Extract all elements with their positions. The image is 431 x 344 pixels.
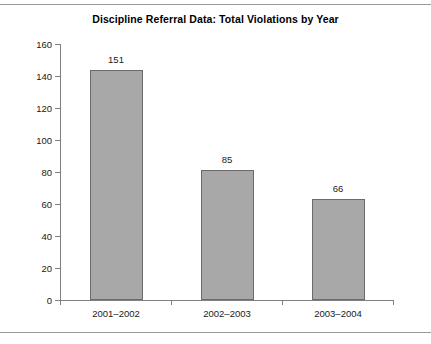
y-axis-tick-label: 160 bbox=[6, 40, 52, 50]
y-axis-tick bbox=[55, 108, 60, 109]
x-axis-tick bbox=[171, 300, 172, 305]
y-axis-tick bbox=[55, 236, 60, 237]
bar-value-label: 151 bbox=[56, 55, 176, 65]
x-axis-tick bbox=[60, 300, 61, 305]
y-axis-tick-label: 40 bbox=[6, 232, 52, 242]
y-axis-tick bbox=[55, 204, 60, 205]
y-axis-tick-label: 60 bbox=[6, 200, 52, 210]
y-axis-tick bbox=[55, 172, 60, 173]
bar-chart-figure: Discipline Referral Data: Total Violatio… bbox=[0, 0, 431, 344]
y-axis-tick bbox=[55, 44, 60, 45]
y-axis-tick-label: 0 bbox=[6, 296, 52, 306]
x-axis-tick bbox=[282, 300, 283, 305]
x-axis-tick bbox=[393, 300, 394, 305]
y-axis-tick-label: 140 bbox=[6, 72, 52, 82]
y-axis-line bbox=[60, 44, 61, 301]
y-axis-tick-label: 80 bbox=[6, 168, 52, 178]
y-axis-tick bbox=[55, 140, 60, 141]
bar-value-label: 85 bbox=[167, 155, 287, 165]
x-axis-category-label: 2002–2003 bbox=[167, 309, 287, 319]
plot-area: 0 20 40 60 80 100 120 140 160 151 85 66 … bbox=[0, 0, 431, 344]
y-axis-tick-label: 100 bbox=[6, 136, 52, 146]
y-axis-tick-label: 120 bbox=[6, 104, 52, 114]
y-axis-tick-label: 20 bbox=[6, 264, 52, 274]
bar-value-label: 66 bbox=[278, 184, 398, 194]
bar-2002-2003[interactable] bbox=[201, 170, 254, 300]
bar-2001-2002[interactable] bbox=[90, 70, 143, 300]
x-axis-category-label: 2003–2004 bbox=[278, 309, 398, 319]
bar-2003-2004[interactable] bbox=[312, 199, 365, 300]
y-axis-tick bbox=[55, 76, 60, 77]
x-axis-category-label: 2001–2002 bbox=[56, 309, 176, 319]
y-axis-tick bbox=[55, 268, 60, 269]
x-axis-line bbox=[60, 300, 394, 301]
